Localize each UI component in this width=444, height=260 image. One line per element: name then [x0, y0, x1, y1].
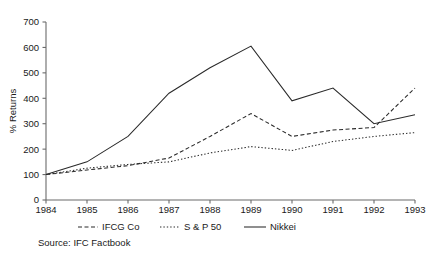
y-tick-label: 200	[23, 144, 39, 155]
x-tick-label: 1990	[281, 204, 302, 215]
legend-label-sp50: S & P 50	[184, 221, 221, 232]
x-tick-label: 1985	[76, 204, 97, 215]
y-tick-label: 500	[23, 67, 39, 78]
source-note: Source: IFC Factbook	[38, 237, 131, 248]
series-line-nikkei	[46, 46, 415, 174]
x-tick-label: 1984	[35, 204, 56, 215]
x-tick-labels: 1984 1985 1986 1987 1988 1989 1990 1991 …	[35, 204, 425, 215]
x-tick-label: 1986	[117, 204, 138, 215]
x-tick-label: 1988	[199, 204, 220, 215]
x-tick-label: 1989	[240, 204, 261, 215]
series-line-ifcg-co	[46, 88, 415, 174]
x-tick-label: 1991	[322, 204, 343, 215]
y-axis-title: % Returns	[7, 89, 18, 134]
legend-label-nikkei: Nikkei	[270, 221, 296, 232]
x-tick-label: 1992	[363, 204, 384, 215]
chart-legend: IFCG Co S & P 50 Nikkei	[78, 221, 296, 232]
y-tick-labels: 700 600 500 400 300 200 100 0	[23, 16, 39, 205]
chart-container: 700 600 500 400 300 200 100 0 % Returns	[0, 0, 444, 260]
y-tick-label: 300	[23, 118, 39, 129]
y-tick-label: 100	[23, 169, 39, 180]
line-chart: 700 600 500 400 300 200 100 0 % Returns	[0, 0, 444, 260]
legend-label-ifcg-co: IFCG Co	[102, 221, 139, 232]
x-tick-label: 1987	[158, 204, 179, 215]
x-tick-label: 1993	[404, 204, 425, 215]
y-tick-label: 600	[23, 42, 39, 53]
series-group	[46, 46, 415, 174]
y-tick-label: 700	[23, 16, 39, 27]
y-tick-label: 400	[23, 93, 39, 104]
